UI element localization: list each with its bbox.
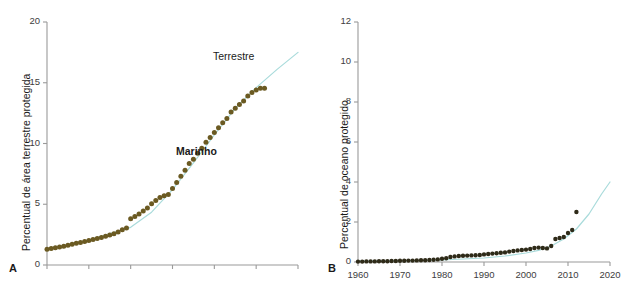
data-point	[78, 240, 83, 245]
data-point	[444, 256, 448, 260]
x-tick-label: 2020	[594, 269, 626, 280]
data-point	[499, 251, 503, 255]
data-point	[95, 236, 100, 241]
data-point	[141, 208, 146, 213]
series-label-terrestre: Terrestre	[213, 50, 254, 62]
data-point	[507, 249, 511, 253]
data-point	[216, 125, 221, 130]
data-points	[356, 210, 579, 264]
data-point	[373, 259, 377, 263]
data-point	[545, 246, 549, 250]
data-point	[532, 246, 536, 250]
data-point	[381, 259, 385, 263]
y-tick-label: 8	[346, 95, 351, 106]
data-point	[448, 255, 452, 259]
data-point	[536, 245, 540, 249]
data-point	[398, 259, 402, 263]
data-point	[208, 135, 213, 140]
data-point	[570, 228, 574, 232]
data-point	[503, 250, 507, 254]
y-tick-label: 4	[346, 175, 351, 186]
data-point	[406, 258, 410, 262]
data-point	[465, 253, 469, 257]
data-point	[385, 259, 389, 263]
panel-a-plot	[0, 0, 320, 287]
panel-b: B Percentual de oceano protegido 0246810…	[320, 0, 641, 287]
data-point	[61, 244, 66, 249]
data-point	[153, 198, 158, 203]
data-point	[440, 257, 444, 261]
data-point	[137, 211, 142, 216]
data-point	[49, 246, 54, 251]
data-point	[402, 259, 406, 263]
data-point	[419, 258, 423, 262]
data-point	[53, 245, 58, 250]
y-tick-label: 10	[340, 55, 351, 66]
data-point	[174, 180, 179, 185]
data-point	[515, 248, 519, 252]
data-point	[415, 258, 419, 262]
panel-b-plot	[320, 0, 641, 287]
data-point	[457, 254, 461, 258]
data-point	[486, 252, 490, 256]
x-tick-label: 1970	[384, 269, 416, 280]
data-point	[224, 116, 229, 121]
y-tick-label: 5	[35, 197, 40, 208]
x-tick-label: 2000	[510, 269, 542, 280]
y-tick-label: 15	[29, 76, 40, 87]
y-tick-label: 0	[35, 258, 40, 269]
data-point	[124, 225, 129, 230]
data-point	[241, 98, 246, 103]
data-point	[360, 259, 364, 263]
data-point	[511, 249, 515, 253]
data-point	[57, 245, 62, 250]
data-point	[549, 244, 553, 248]
data-point	[145, 205, 150, 210]
data-point	[364, 259, 368, 263]
data-point	[70, 242, 75, 247]
data-point	[220, 120, 225, 125]
data-point	[410, 258, 414, 262]
data-point	[377, 259, 381, 263]
data-point	[170, 186, 175, 191]
x-tick-label: 1960	[342, 269, 374, 280]
data-point	[553, 237, 557, 241]
data-point	[473, 253, 477, 257]
data-point	[91, 237, 96, 242]
data-point	[187, 161, 192, 166]
fit-curve	[47, 52, 298, 248]
data-point	[166, 192, 171, 197]
data-point	[436, 257, 440, 261]
y-tick-label: 2	[346, 215, 351, 226]
data-point	[520, 248, 524, 252]
data-point	[557, 236, 561, 240]
x-tick-label: 1990	[468, 269, 500, 280]
data-point	[183, 168, 188, 173]
data-point	[482, 252, 486, 256]
y-tick-label: 10	[29, 137, 40, 148]
data-point	[233, 106, 238, 111]
data-point	[65, 243, 70, 248]
data-point	[45, 247, 50, 252]
x-tick-label: 1980	[426, 269, 458, 280]
data-point	[128, 216, 133, 221]
data-point	[427, 258, 431, 262]
data-point	[86, 238, 91, 243]
data-point	[237, 102, 242, 107]
data-point	[478, 253, 482, 257]
fit-curve	[358, 182, 610, 261]
data-point	[132, 214, 137, 219]
data-point	[191, 157, 196, 162]
data-point	[394, 259, 398, 263]
data-point	[562, 235, 566, 239]
y-tick-label: 0	[346, 255, 351, 266]
data-point	[229, 109, 234, 114]
data-point	[490, 251, 494, 255]
data-point	[149, 201, 154, 206]
data-point	[461, 254, 465, 258]
y-tick-label: 12	[340, 15, 351, 26]
data-point	[528, 247, 532, 251]
data-point	[74, 241, 79, 246]
data-point	[566, 231, 570, 235]
panel-a: A Percentual de área terrestre protegida…	[0, 0, 320, 287]
